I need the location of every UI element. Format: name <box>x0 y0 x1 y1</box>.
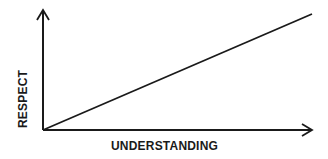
x-axis-label: UNDERSTANDING <box>111 139 218 153</box>
respect-understanding-chart: RESPECT UNDERSTANDING <box>0 0 328 159</box>
data-line <box>43 14 312 130</box>
y-axis-label: RESPECT <box>16 69 30 128</box>
